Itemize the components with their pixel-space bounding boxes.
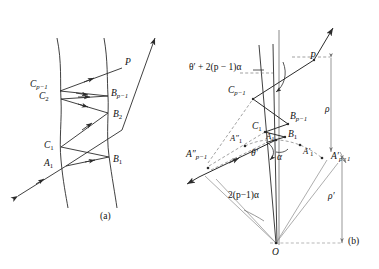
label-Cp-1: Cp−1 (30, 80, 48, 91)
label-P: P (125, 58, 131, 69)
label-Ap-1-dprime: A″p−1 (186, 150, 207, 161)
label-Cp-1-b: Cp−1 (228, 86, 246, 97)
panel-b-incoming-ray (187, 140, 276, 184)
panel-b-exit-ray (253, 28, 333, 99)
label-A1-b: A1 (266, 132, 275, 143)
panel-b-angle-arc-top (276, 62, 285, 92)
external-ray-arrowhead-mid (36, 179, 44, 184)
label-Ap-1-prime: A′p−1 (331, 152, 350, 163)
caption-a: (a) (100, 211, 111, 221)
label-B1: B1 (113, 155, 122, 166)
label-B2: B2 (113, 110, 122, 121)
caption-b: (b) (348, 236, 359, 246)
panel-b-radius-lines (205, 160, 338, 243)
label-B1-b: B1 (288, 130, 297, 141)
label-A1-dprime: A″1 (230, 134, 242, 145)
figure-container: P Cp−1 C2 Bp−1 B2 C1 A1 B1 θ′ + 2(p − 1)… (0, 0, 379, 269)
label-theta-prime: θ′ (251, 149, 258, 159)
label-theta-expression: θ′ + 2(p − 1)α (189, 63, 241, 73)
label-A1: A1 (44, 159, 53, 170)
label-Bp-1-b: Bp−1 (290, 112, 307, 123)
label-O: O (272, 248, 279, 258)
label-two-p-alpha: 2(p−1)α (228, 191, 259, 201)
label-rho-prime: ρ′ (328, 192, 335, 202)
surface-curve-right (104, 38, 117, 208)
label-C2: C2 (39, 92, 49, 103)
label-alpha: α (277, 153, 282, 163)
label-C1-b: C1 (252, 122, 262, 133)
label-rho: ρ (325, 105, 330, 115)
panel-a-drawing (0, 0, 379, 269)
label-P-b: P (310, 52, 316, 62)
surface-curve-left (57, 38, 68, 208)
external-ray (18, 38, 155, 196)
label-C1: C1 (44, 141, 54, 152)
label-A1-prime: A′1 (303, 147, 313, 158)
label-Bp-1: Bp−1 (111, 89, 128, 100)
